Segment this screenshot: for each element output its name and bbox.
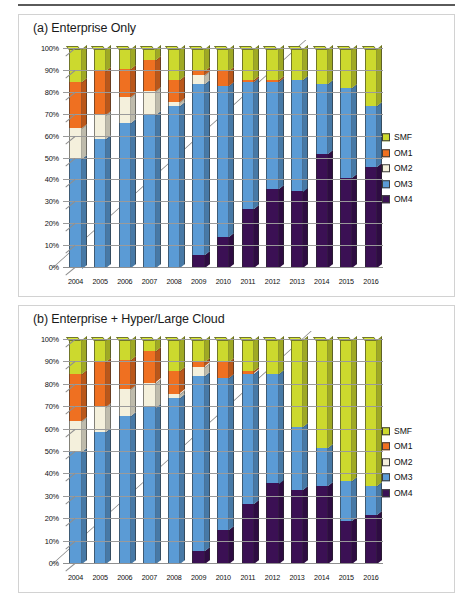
bar-segment-om2[interactable] [168, 394, 180, 398]
bar-segment-om3[interactable] [291, 427, 303, 490]
bar-segment-om4[interactable] [217, 530, 229, 564]
bar-segment-om4[interactable] [291, 191, 303, 268]
bar-segment-om2[interactable] [119, 389, 131, 416]
stacked-bar[interactable] [266, 49, 278, 268]
stacked-bar[interactable] [168, 49, 180, 268]
legend-item-smf[interactable]: SMF [382, 130, 444, 146]
stacked-bar[interactable] [217, 49, 229, 268]
stacked-bar[interactable] [242, 49, 254, 268]
bar-segment-om1[interactable] [119, 360, 131, 389]
stacked-bar[interactable] [192, 340, 204, 564]
stacked-bar[interactable] [192, 49, 204, 268]
bar-segment-om2[interactable] [143, 91, 155, 115]
bar-segment-smf[interactable] [365, 49, 377, 106]
legend-item-om4[interactable]: OM4 [382, 485, 444, 501]
bar-segment-smf[interactable] [69, 340, 81, 374]
bar-segment-om4[interactable] [242, 504, 254, 564]
bar-segment-om3[interactable] [69, 159, 81, 269]
bar-segment-om1[interactable] [192, 71, 204, 75]
bar-segment-smf[interactable] [266, 340, 278, 374]
legend-item-om1[interactable]: OM1 [382, 439, 444, 455]
bar-segment-om1[interactable] [242, 80, 254, 82]
bar-segment-smf[interactable] [217, 49, 229, 71]
bar-segment-om3[interactable] [242, 374, 254, 504]
bar-segment-om2[interactable] [119, 97, 131, 123]
bar-segment-om4[interactable] [365, 167, 377, 268]
stacked-bar[interactable] [69, 340, 81, 564]
legend-item-om1[interactable]: OM1 [382, 145, 444, 161]
bar-segment-om4[interactable] [316, 486, 328, 564]
bar-segment-om3[interactable] [119, 123, 131, 268]
bar-segment-smf[interactable] [192, 49, 204, 71]
bar-segment-smf[interactable] [242, 340, 254, 371]
bar-segment-om3[interactable] [217, 378, 229, 530]
legend-item-om3[interactable]: OM3 [382, 176, 444, 192]
stacked-bar[interactable] [365, 340, 377, 564]
bar-segment-om3[interactable] [340, 481, 352, 521]
bar-segment-om3[interactable] [69, 452, 81, 564]
bar-segment-om1[interactable] [192, 362, 204, 366]
bar-segment-om2[interactable] [168, 102, 180, 106]
bar-segment-om4[interactable] [242, 209, 254, 268]
bar-segment-smf[interactable] [316, 49, 328, 84]
stacked-bar[interactable] [94, 340, 106, 564]
bar-segment-om2[interactable] [192, 367, 204, 376]
stacked-bar[interactable] [316, 49, 328, 268]
stacked-bar[interactable] [266, 340, 278, 564]
bar-segment-om1[interactable] [266, 80, 278, 82]
bar-segment-om4[interactable] [340, 521, 352, 564]
bar-segment-om3[interactable] [316, 448, 328, 486]
bar-segment-smf[interactable] [291, 49, 303, 80]
bar-segment-om4[interactable] [217, 237, 229, 268]
bar-segment-smf[interactable] [69, 49, 81, 82]
bar-segment-smf[interactable] [119, 49, 131, 69]
bar-segment-om3[interactable] [217, 86, 229, 237]
bar-segment-om2[interactable] [69, 421, 81, 452]
bar-segment-om3[interactable] [365, 486, 377, 515]
bar-segment-om1[interactable] [168, 371, 180, 393]
bar-segment-om1[interactable] [143, 60, 155, 91]
legend-item-om3[interactable]: OM3 [382, 470, 444, 486]
bar-segment-om3[interactable] [340, 88, 352, 178]
bar-segment-om4[interactable] [316, 154, 328, 268]
bar-segment-om3[interactable] [168, 398, 180, 564]
bar-segment-smf[interactable] [340, 49, 352, 88]
bar-segment-om2[interactable] [69, 128, 81, 159]
bar-segment-om3[interactable] [242, 82, 254, 209]
bar-segment-om3[interactable] [316, 84, 328, 154]
stacked-bar[interactable] [94, 49, 106, 268]
stacked-bar[interactable] [242, 340, 254, 564]
stacked-bar[interactable] [291, 49, 303, 268]
bar-segment-om1[interactable] [69, 82, 81, 128]
bar-segment-om1[interactable] [242, 371, 254, 373]
bar-segment-om1[interactable] [168, 80, 180, 102]
legend-item-om2[interactable]: OM2 [382, 161, 444, 177]
bar-segment-smf[interactable] [266, 49, 278, 80]
bar-segment-om1[interactable] [217, 71, 229, 86]
bar-segment-om3[interactable] [192, 376, 204, 551]
stacked-bar[interactable] [365, 49, 377, 268]
bar-segment-om4[interactable] [192, 551, 204, 564]
bar-segment-om3[interactable] [192, 84, 204, 255]
stacked-bar[interactable] [143, 49, 155, 268]
bar-segment-smf[interactable] [94, 340, 106, 362]
bar-segment-om4[interactable] [365, 515, 377, 564]
bar-segment-smf[interactable] [217, 340, 229, 362]
bar-segment-smf[interactable] [192, 340, 204, 362]
bar-segment-om1[interactable] [69, 374, 81, 421]
stacked-bar[interactable] [340, 49, 352, 268]
stacked-bar[interactable] [168, 340, 180, 564]
bar-segment-om2[interactable] [192, 75, 204, 84]
bar-segment-om1[interactable] [217, 362, 229, 378]
bar-segment-om3[interactable] [168, 106, 180, 268]
legend-item-om2[interactable]: OM2 [382, 454, 444, 470]
legend-item-om4[interactable]: OM4 [382, 192, 444, 208]
stacked-bar[interactable] [143, 340, 155, 564]
legend-item-smf[interactable]: SMF [382, 423, 444, 439]
stacked-bar[interactable] [340, 340, 352, 564]
bar-segment-smf[interactable] [316, 340, 328, 448]
bar-segment-om4[interactable] [291, 490, 303, 564]
bar-segment-smf[interactable] [168, 49, 180, 80]
stacked-bar[interactable] [316, 340, 328, 564]
bar-segment-smf[interactable] [242, 49, 254, 80]
